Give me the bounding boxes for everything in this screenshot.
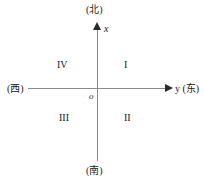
direction-label-north: (北) [86, 5, 103, 15]
axis-label-x: x [104, 24, 108, 34]
direction-label-east: y (东) [175, 84, 199, 94]
direction-label-west: (西) [7, 84, 24, 94]
quadrant-label-4: IV [57, 60, 68, 70]
quadrant-label-2: II [124, 113, 131, 123]
quadrant-label-3: III [59, 113, 69, 123]
vertical-axis-line [97, 27, 98, 161]
coordinate-quadrant-diagram: (北) (南) (西) y (东) x o I II III IV [0, 0, 204, 185]
direction-label-south: (南) [86, 166, 103, 176]
quadrant-label-1: I [124, 60, 127, 70]
origin-label: o [89, 92, 94, 101]
north-arrowhead-icon [93, 22, 101, 30]
east-arrowhead-icon [165, 84, 173, 92]
